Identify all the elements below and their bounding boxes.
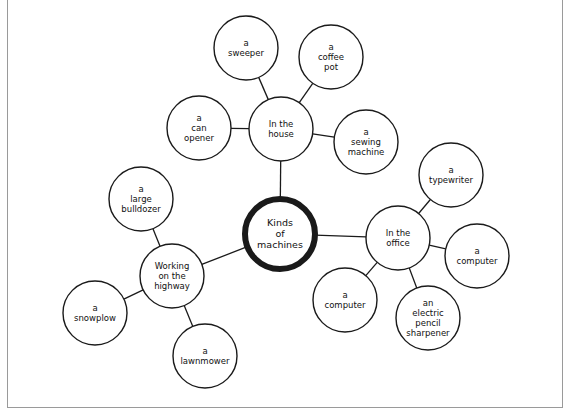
node-label-line: a bbox=[474, 246, 479, 256]
node-label-line: electric bbox=[412, 308, 444, 318]
item-node-pencil-sharpener: anelectricpencilsharpener bbox=[396, 286, 460, 350]
item-node-typewriter: atypewriter bbox=[419, 143, 483, 207]
category-node-highway: Workingon thehighway bbox=[140, 244, 204, 308]
category-node-office: In theoffice bbox=[366, 206, 430, 270]
node-label-line: a bbox=[92, 303, 97, 313]
node-label-line: Working bbox=[155, 261, 190, 271]
item-node-snowplow: asnowplow bbox=[63, 281, 127, 345]
diagram-nodes: KindsofmachinesIn thehouseasweeperacoffe… bbox=[63, 16, 509, 388]
node-label-line: a bbox=[196, 113, 201, 123]
item-node-can-opener: acanopener bbox=[167, 96, 231, 160]
node-label-line: typewriter bbox=[429, 175, 473, 185]
node-label-line: a bbox=[138, 184, 143, 194]
node-label-line: a bbox=[202, 346, 207, 356]
node-label-line: opener bbox=[184, 133, 214, 143]
node-label-line: sweeper bbox=[228, 48, 264, 58]
node-label-line: an bbox=[423, 298, 434, 308]
node-label-line: In the bbox=[269, 119, 294, 129]
connector-center-office bbox=[315, 235, 366, 237]
node-label-line: of bbox=[275, 228, 285, 239]
connector-center-highway bbox=[202, 247, 248, 265]
item-node-computer-left: acomputer bbox=[313, 268, 377, 332]
connector-highway-bulldozer bbox=[153, 229, 160, 247]
connector-highway-snowplow bbox=[124, 290, 143, 299]
connector-highway-lawnmower bbox=[184, 306, 193, 327]
node-label-line: can bbox=[191, 123, 206, 133]
node-label-line: a bbox=[243, 38, 248, 48]
node-label-line: pencil bbox=[415, 318, 440, 328]
node-label-line: computer bbox=[457, 256, 498, 266]
category-node-house: In thehouse bbox=[249, 97, 313, 161]
node-label-line: snowplow bbox=[74, 313, 116, 323]
node-label-line: machines bbox=[257, 239, 303, 250]
connector-office-pencil-sharpener bbox=[409, 268, 417, 288]
node-label-line: a bbox=[448, 165, 453, 175]
node-label-line: office bbox=[386, 238, 409, 248]
item-node-bulldozer: alargebulldozer bbox=[109, 167, 173, 231]
node-label-line: machine bbox=[348, 147, 385, 157]
node-label-line: lawnmower bbox=[180, 356, 230, 366]
node-label-line: In the bbox=[386, 228, 411, 238]
item-node-sewing-machine: asewingmachine bbox=[334, 110, 398, 174]
node-label-line: computer bbox=[325, 300, 366, 310]
node-label-line: bulldozer bbox=[121, 204, 161, 214]
node-label-line: sharpener bbox=[406, 328, 450, 338]
node-label-line: Kinds bbox=[267, 217, 293, 228]
connector-house-coffee-pot bbox=[299, 83, 312, 102]
node-label-line: a bbox=[363, 127, 368, 137]
node-label-line: large bbox=[130, 194, 152, 204]
node-label-line: house bbox=[268, 129, 294, 139]
item-node-lawnmower: alawnmower bbox=[173, 324, 237, 388]
node-label-line: a bbox=[342, 290, 347, 300]
item-node-coffee-pot: acoffeepot bbox=[299, 25, 363, 89]
central-node-kinds-of-machines: Kindsofmachines bbox=[245, 199, 315, 269]
node-label-line: pot bbox=[324, 62, 339, 72]
connector-office-computer-right bbox=[429, 245, 446, 249]
connector-office-typewriter bbox=[419, 199, 431, 213]
node-label-line: highway bbox=[154, 281, 190, 291]
item-node-sweeper: asweeper bbox=[214, 16, 278, 80]
semantic-web-diagram: KindsofmachinesIn thehouseasweeperacoffe… bbox=[0, 0, 577, 420]
connector-house-sewing-machine bbox=[313, 134, 335, 137]
node-label-line: on the bbox=[158, 271, 185, 281]
node-label-line: sewing bbox=[351, 137, 381, 147]
connector-office-computer-left bbox=[366, 262, 377, 275]
item-node-computer-right: acomputer bbox=[445, 224, 509, 288]
connector-house-sweeper bbox=[259, 77, 269, 99]
node-label-line: coffee bbox=[318, 52, 344, 62]
node-label-line: a bbox=[328, 42, 333, 52]
